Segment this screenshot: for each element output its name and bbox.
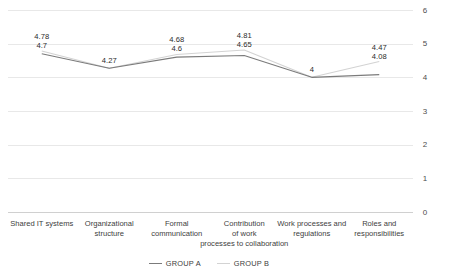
- legend-swatch-icon: [149, 263, 162, 265]
- data-label-5-group-b: 4.47: [372, 43, 387, 52]
- series-line-group-b: [42, 50, 380, 77]
- plot-area: [8, 10, 413, 212]
- legend-label: GROUP B: [234, 259, 269, 268]
- data-label-3-group-b: 4.81: [237, 31, 252, 40]
- x-category-line: processes to collaboration: [191, 239, 299, 249]
- y-tick-label-5: 5: [418, 39, 432, 48]
- legend-item-0[interactable]: GROUP A: [149, 259, 201, 268]
- data-label-4-merged: 4: [310, 65, 314, 74]
- x-category-label-5: Roles andresponsibilities: [326, 219, 434, 239]
- legend-swatch-icon: [217, 263, 230, 265]
- x-category-line: responsibilities: [326, 229, 434, 239]
- data-label-0-group-b: 4.78: [34, 32, 49, 41]
- chart-legend: GROUP AGROUP B: [0, 259, 418, 268]
- x-axis-baseline: [8, 212, 413, 213]
- data-label-0-group-a: 4.7: [36, 41, 47, 50]
- data-label-2-group-a: 4.6: [171, 44, 182, 53]
- y-tick-label-3: 3: [418, 107, 432, 116]
- x-category-line: Roles and: [326, 219, 434, 229]
- legend-item-1[interactable]: GROUP B: [217, 259, 269, 268]
- y-tick-label-0: 0: [418, 208, 432, 217]
- data-label-1-merged: 4.27: [102, 56, 117, 65]
- y-tick-label-4: 4: [418, 73, 432, 82]
- x-axis: Shared IT systemsOrganizationalstructure…: [0, 219, 418, 259]
- legend-label: GROUP A: [166, 259, 201, 268]
- y-tick-label-2: 2: [418, 140, 432, 149]
- y-tick-label-6: 6: [418, 6, 432, 15]
- data-label-2-group-b: 4.68: [169, 35, 184, 44]
- y-axis: 0123456: [418, 0, 448, 222]
- data-label-5-group-a: 4.08: [372, 52, 387, 61]
- line-chart: 4.784.74.274.684.64.814.6544.474.08 0123…: [0, 0, 451, 277]
- data-label-3-group-a: 4.65: [237, 40, 252, 49]
- series-lines: [8, 10, 413, 212]
- y-tick-label-1: 1: [418, 174, 432, 183]
